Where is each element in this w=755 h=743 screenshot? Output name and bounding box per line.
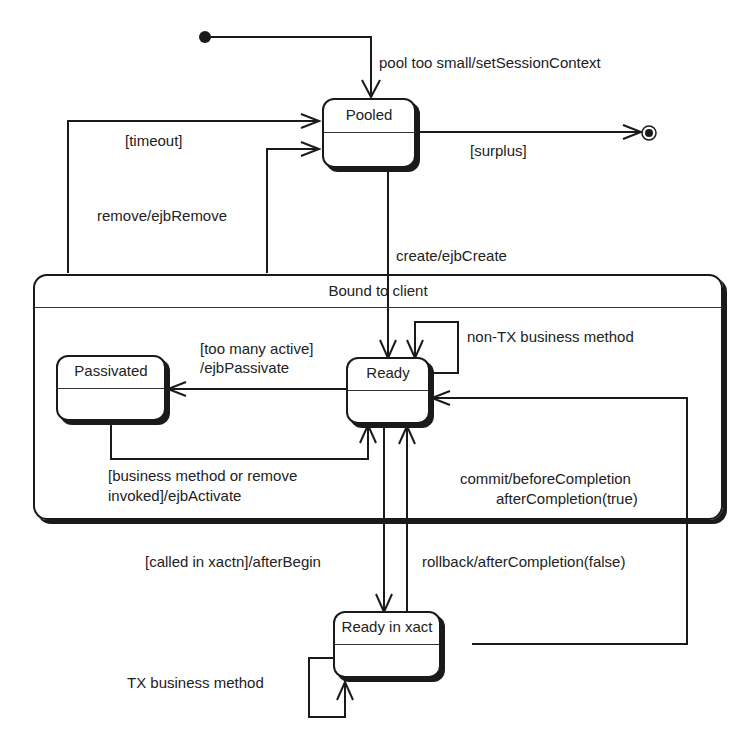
label-activate-1: [business method or remove (108, 467, 297, 485)
label-non-tx: non-TX business method (467, 328, 634, 346)
label-commit-2: afterCompletion(true) (496, 490, 638, 508)
state-ready-in-xact[interactable]: Ready in xact (333, 611, 441, 678)
state-name: Ready in xact (335, 618, 439, 635)
edge-remove (267, 149, 319, 273)
edge-initial-to-pooled (210, 37, 371, 96)
state-ready[interactable]: Ready (346, 357, 430, 424)
state-pooled[interactable]: Pooled (322, 98, 416, 168)
label-initial-to-pooled: pool too small/setSessionContext (379, 54, 601, 72)
state-name: Pooled (324, 106, 414, 123)
state-name: Ready (348, 364, 428, 381)
state-name: Bound to client (35, 282, 721, 299)
state-divider (35, 307, 721, 308)
edge-timeout (68, 121, 319, 273)
state-divider (335, 644, 439, 645)
label-surplus: [surplus] (470, 142, 527, 160)
state-divider (348, 390, 428, 391)
label-passivate-1: [too many active] (200, 340, 313, 358)
label-tx-business: TX business method (127, 674, 264, 692)
label-rollback: rollback/afterCompletion(false) (422, 553, 625, 571)
state-divider (58, 388, 164, 389)
label-after-begin: [called in xactn]/afterBegin (145, 553, 321, 571)
state-name: Passivated (58, 362, 164, 379)
state-divider (324, 132, 414, 133)
final-state-dot (645, 129, 653, 137)
label-remove: remove/ejbRemove (97, 207, 227, 225)
label-commit-1: commit/beforeCompletion (460, 470, 631, 488)
label-create: create/ejbCreate (396, 247, 507, 265)
label-passivate-2: /ejbPassivate (200, 359, 289, 377)
state-passivated[interactable]: Passivated (56, 355, 166, 421)
label-timeout: [timeout] (125, 132, 183, 150)
label-activate-2: invoked]/ejbActivate (108, 487, 241, 505)
initial-state-dot (199, 31, 211, 43)
